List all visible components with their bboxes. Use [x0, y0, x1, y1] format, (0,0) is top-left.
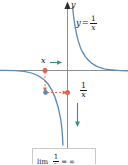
reciprocal-denominator: x [80, 91, 87, 99]
limit-denominator: x [53, 162, 59, 164]
limit-subscript: x [47, 162, 50, 164]
x-approach-arrowhead-icon [57, 60, 62, 64]
y-axis-arrowhead-icon [64, 2, 70, 10]
equation-fraction: 1x [90, 15, 97, 31]
equation-equals: = [81, 18, 90, 28]
curve-equation-label: y=1x [76, 15, 97, 31]
reciprocal-decrease-arrowhead-icon [75, 122, 80, 128]
limit-expression: limx1x=∞ [37, 154, 75, 164]
limit-result: ∞ [69, 158, 75, 165]
reciprocal-fraction: 1x [80, 82, 87, 99]
math-figure-one-over-x: y y=1x x 1x limx1x=∞ [0, 0, 128, 164]
equation-denominator: x [90, 24, 97, 32]
graph-canvas [0, 0, 128, 164]
limit-statement-box: limx1x=∞ [32, 148, 96, 164]
reciprocal-value-marker [65, 90, 70, 95]
curve-branch-negative [0, 70, 63, 145]
limit-fraction: 1x [53, 154, 59, 164]
limit-equals: = [60, 158, 68, 165]
y-axis-label: y [71, 1, 76, 9]
x-value-marker [43, 68, 48, 73]
curve-point-marker [43, 90, 48, 95]
reciprocal-label: 1x [80, 82, 87, 99]
x-approach-label: x [41, 57, 46, 65]
